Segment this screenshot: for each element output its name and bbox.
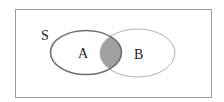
set-a-label: A: [78, 46, 89, 61]
venn-diagram: S A B: [0, 0, 224, 102]
set-b-label: B: [134, 47, 143, 62]
universe-label: S: [41, 28, 49, 43]
